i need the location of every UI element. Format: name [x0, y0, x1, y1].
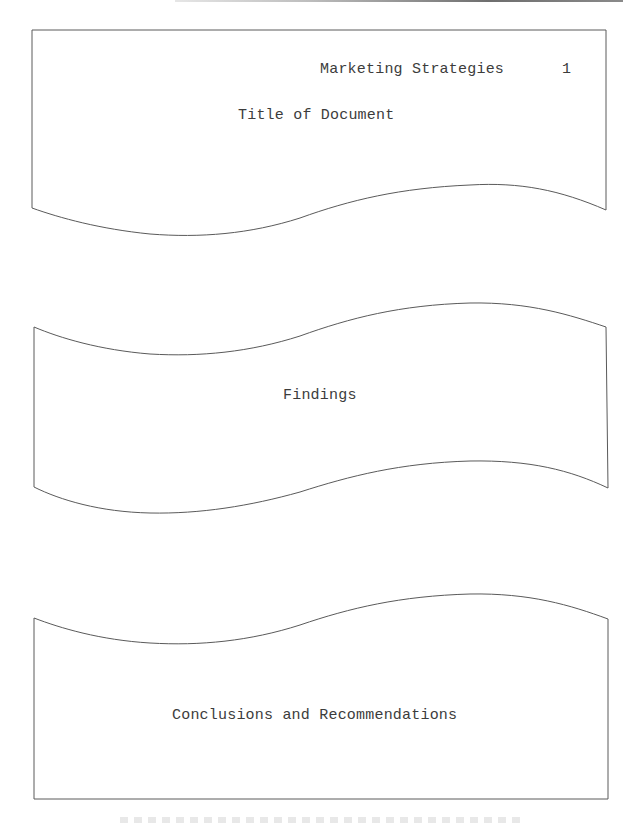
section-title-label: Title of Document — [238, 107, 394, 125]
page-number: 1 — [562, 61, 571, 79]
cutoff-caption — [120, 817, 520, 823]
section-findings-label: Findings — [283, 387, 357, 405]
section-conclusions-label: Conclusions and Recommendations — [172, 707, 457, 725]
findings-page-shape — [34, 303, 608, 513]
conclusions-page-shape — [34, 594, 608, 799]
running-header: Marketing Strategies — [320, 61, 504, 79]
title-page-shape — [32, 30, 606, 235]
